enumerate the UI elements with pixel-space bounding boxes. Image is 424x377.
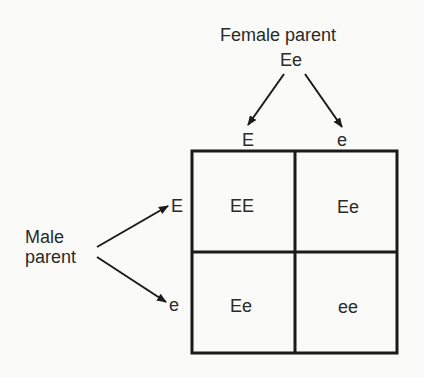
female-arrow-to-E bbox=[248, 74, 284, 125]
punnett-cell-Ee-bottom-left: Ee bbox=[230, 297, 252, 315]
male-parent-label-line2: parent bbox=[25, 248, 76, 266]
punnett-cell-ee: ee bbox=[338, 298, 358, 316]
male-gamete-E: E bbox=[171, 197, 183, 215]
male-arrow-to-e bbox=[97, 257, 166, 302]
punnett-cell-EE: EE bbox=[230, 197, 254, 215]
diagram-lines bbox=[0, 0, 424, 377]
punnett-cell-Ee-top-right: Ee bbox=[337, 198, 359, 216]
male-parent-label-line1: Male bbox=[25, 228, 64, 246]
female-gamete-E: E bbox=[242, 131, 254, 149]
male-gamete-e: e bbox=[169, 296, 179, 314]
female-arrow-to-e bbox=[305, 74, 342, 127]
female-parent-label: Female parent bbox=[220, 26, 336, 44]
male-arrow-to-E bbox=[97, 206, 168, 247]
female-gamete-e: e bbox=[337, 131, 347, 149]
female-parent-genotype: Ee bbox=[280, 51, 302, 69]
